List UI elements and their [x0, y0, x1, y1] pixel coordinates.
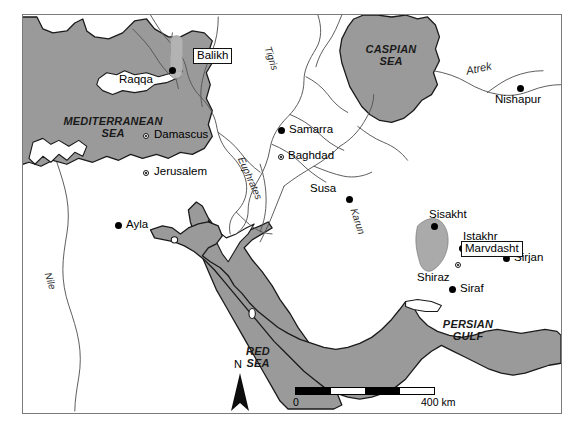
gulf-islet-west	[171, 237, 177, 243]
scale-segment-4	[400, 388, 435, 394]
ayla-marker	[115, 222, 122, 229]
scale-segment-1	[296, 388, 331, 394]
baghdad-label: Baghdad	[288, 149, 334, 161]
marvdasht-region-label[interactable]: Marvdasht	[461, 241, 523, 257]
scale-bar-graphic	[295, 387, 435, 395]
caspian-sea-shape	[340, 15, 440, 122]
shiraz-marker	[455, 262, 461, 268]
gulf-islet-mid	[249, 309, 255, 319]
map-frame: MEDITERRANEAN SEA RED SEA CASPIAN SEA PE…	[22, 14, 562, 414]
nishapur-marker	[517, 85, 524, 92]
ayla-label: Ayla	[126, 218, 148, 230]
raqqa-label: Raqqa	[119, 73, 153, 85]
samarra-label: Samarra	[289, 123, 333, 135]
scale-bar: 0 400 km	[295, 387, 435, 409]
balikh-region-label[interactable]: Balikh	[193, 48, 232, 64]
sisakht-marker	[431, 223, 438, 230]
north-arrow: N	[227, 359, 253, 411]
scale-start-label: 0	[293, 396, 299, 408]
nile-river-path	[57, 162, 80, 411]
susa-marker	[346, 196, 353, 203]
sisakht-label: Sisakht	[429, 208, 467, 220]
jerusalem-label: Jerusalem	[154, 165, 207, 177]
jerusalem-marker	[143, 170, 149, 176]
damascus-marker	[143, 133, 149, 139]
shiraz-label: Shiraz	[417, 271, 450, 283]
siraf-label: Siraf	[460, 282, 484, 294]
scale-segment-2	[331, 388, 366, 394]
map-figure: MEDITERRANEAN SEA RED SEA CASPIAN SEA PE…	[0, 0, 584, 430]
plateau-river-east	[314, 166, 372, 177]
scale-segment-3	[365, 388, 400, 394]
scale-end-label: 400 km	[421, 396, 455, 408]
map-canvas	[23, 15, 561, 413]
baghdad-marker	[278, 154, 284, 160]
north-arrow-label: N	[234, 358, 242, 370]
damascus-label: Damascus	[154, 128, 208, 140]
atrek-river-path	[433, 71, 561, 96]
susa-label: Susa	[310, 182, 336, 194]
nishapur-label: Nishapur	[495, 93, 541, 105]
siraf-marker	[449, 286, 456, 293]
samarra-marker	[278, 127, 285, 134]
tigris-tributary-east	[306, 77, 348, 113]
north-arrow-glyph	[227, 373, 253, 413]
plateau-river-north	[358, 126, 408, 160]
scale-bar-ticks: 0 400 km	[295, 395, 435, 409]
raqqa-marker	[169, 67, 176, 74]
